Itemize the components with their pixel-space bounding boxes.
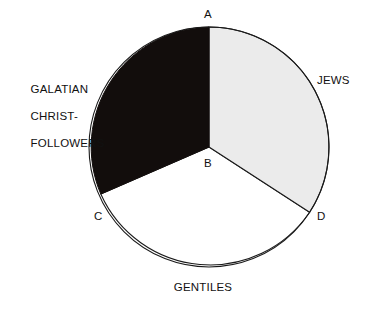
point-label-a: A bbox=[204, 8, 212, 20]
point-label-c: C bbox=[94, 210, 102, 222]
point-label-d: D bbox=[317, 210, 325, 222]
label-galatian-line-3: FOLLOWERS bbox=[31, 137, 105, 149]
label-gentiles: GENTILES bbox=[174, 281, 232, 295]
pie-diagram-figure: GALATIAN CHRIST- FOLLOWERS JEWS GENTILES… bbox=[0, 0, 370, 310]
point-label-b: B bbox=[204, 157, 212, 169]
label-galatian-line-1: GALATIAN bbox=[31, 83, 89, 95]
label-galatian-christ-followers: GALATIAN CHRIST- FOLLOWERS bbox=[17, 69, 105, 164]
label-jews: JEWS bbox=[317, 74, 350, 88]
label-galatian-line-2: CHRIST- bbox=[31, 110, 78, 122]
